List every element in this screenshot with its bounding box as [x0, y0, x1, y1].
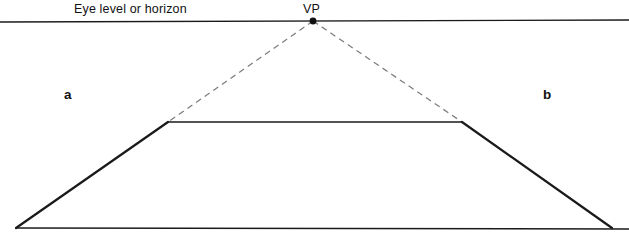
trapezoid-left-edge	[16, 122, 168, 228]
horizon-label: Eye level or horizon	[74, 3, 187, 16]
diagram-canvas	[0, 0, 629, 235]
region-label-a: a	[64, 88, 72, 102]
dashed-ray-right	[313, 21, 462, 122]
region-label-b: b	[543, 88, 551, 102]
trapezoid-bottom-edge	[16, 228, 629, 229]
dashed-ray-left	[168, 21, 313, 122]
perspective-diagram: Eye level or horizon VP a b	[0, 0, 629, 235]
vanishing-point-label: VP	[303, 3, 320, 16]
trapezoid-right-edge	[462, 122, 612, 228]
vanishing-point-dot	[310, 18, 317, 25]
